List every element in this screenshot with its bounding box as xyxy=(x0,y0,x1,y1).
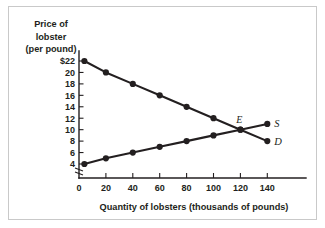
data-point-s xyxy=(210,132,216,138)
y-axis-title-line: (per pound) xyxy=(25,44,76,54)
data-point-s xyxy=(264,121,270,127)
x-tick-label: 20 xyxy=(101,183,111,193)
x-axis-title: Quantity of lobsters (thousands of pound… xyxy=(100,202,289,212)
y-tick-label: 18 xyxy=(65,79,75,89)
curve-label-d: D xyxy=(273,136,282,147)
y-tick-label: 6 xyxy=(70,148,75,158)
y-tick-label: 12 xyxy=(65,114,75,124)
y-tick-label: 16 xyxy=(65,91,75,101)
data-point-d xyxy=(103,69,109,75)
x-tick-label: 140 xyxy=(260,183,275,193)
chart-frame: 468101214161820$22020406080100120140DSEP… xyxy=(8,6,317,220)
x-tick-label: 0 xyxy=(76,183,81,193)
x-tick-label: 120 xyxy=(233,183,248,193)
data-point-s xyxy=(184,138,190,144)
data-point-d xyxy=(81,58,87,64)
x-tick-label: 100 xyxy=(206,183,221,193)
data-point-d xyxy=(184,104,190,110)
annotation-label-e: E xyxy=(235,114,242,125)
y-axis-title-line: lobster xyxy=(36,32,67,42)
data-point-s xyxy=(237,127,243,133)
data-point-s xyxy=(157,144,163,150)
data-point-d xyxy=(157,92,163,98)
data-point-d xyxy=(130,81,136,87)
y-tick-label: 14 xyxy=(65,102,75,112)
y-tick-label: $22 xyxy=(60,56,75,66)
x-tick-label: 60 xyxy=(155,183,165,193)
curve-label-s: S xyxy=(274,118,280,129)
y-tick-label: 20 xyxy=(65,68,75,78)
data-point-d xyxy=(210,115,216,121)
data-point-s xyxy=(103,155,109,161)
data-point-d xyxy=(264,138,270,144)
supply-demand-chart: 468101214161820$22020406080100120140DSEP… xyxy=(9,7,316,219)
x-tick-label: 80 xyxy=(182,183,192,193)
y-tick-label: 4 xyxy=(70,159,75,169)
x-tick-label: 40 xyxy=(128,183,138,193)
data-point-s xyxy=(81,161,87,167)
y-tick-label: 8 xyxy=(70,136,75,146)
y-axis-title-line: Price of xyxy=(34,19,69,29)
data-point-s xyxy=(130,149,136,155)
y-tick-label: 10 xyxy=(65,125,75,135)
